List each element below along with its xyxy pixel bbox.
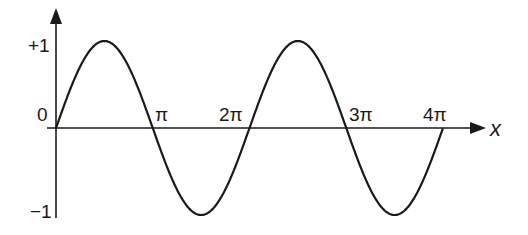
y-tick-label-minus-one: −1 bbox=[30, 201, 52, 222]
y-tick-label-plus-one: +1 bbox=[28, 35, 50, 56]
x-tick-label-4pi: 4π bbox=[423, 104, 447, 125]
x-tick-label-pi: π bbox=[155, 104, 168, 125]
y-tick-label-zero: 0 bbox=[37, 104, 48, 125]
x-axis-arrow-icon bbox=[470, 122, 486, 134]
x-tick-label-2pi: 2π bbox=[219, 104, 243, 125]
y-axis-arrow-icon bbox=[50, 8, 62, 24]
x-axis-label: x bbox=[489, 116, 502, 141]
x-tick-label-3pi: 3π bbox=[349, 104, 373, 125]
sine-wave-chart: +1 0 −1 π 2π 3π 4π x bbox=[0, 0, 528, 235]
